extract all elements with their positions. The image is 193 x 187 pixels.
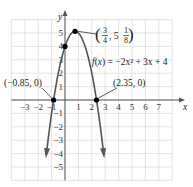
- svg-text:−2: −2: [53, 122, 63, 132]
- right-root-point: [94, 97, 99, 102]
- left-root-point: [51, 97, 56, 102]
- svg-text:3: 3: [103, 102, 108, 112]
- svg-text:−2: −2: [33, 102, 43, 112]
- left-root-label: (−0.85, 0): [4, 78, 42, 89]
- svg-text:−3: −3: [53, 135, 63, 145]
- svg-text:7: 7: [157, 102, 162, 112]
- function-label: f(x) = −2x² + 3x + 4: [92, 57, 168, 68]
- x-axis-label: x: [182, 102, 188, 112]
- svg-text:5: 5: [130, 102, 135, 112]
- svg-text:−5: −5: [53, 162, 63, 172]
- svg-text:): ): [128, 25, 134, 44]
- vertex-point: [72, 29, 77, 34]
- svg-text:−1: −1: [53, 108, 63, 118]
- svg-text:, 5: , 5: [109, 31, 119, 41]
- svg-text:1: 1: [59, 82, 64, 92]
- svg-text:−3: −3: [20, 102, 30, 112]
- svg-text:(: (: [95, 25, 101, 44]
- svg-text:−4: −4: [53, 149, 63, 159]
- svg-text:3: 3: [103, 26, 107, 35]
- y-axis-label: y: [57, 12, 63, 22]
- right-root-label: (2.35, 0): [113, 78, 145, 89]
- svg-text:6: 6: [143, 102, 148, 112]
- svg-text:5: 5: [59, 28, 64, 38]
- y-intercept-point: [62, 44, 67, 49]
- svg-text:2: 2: [90, 102, 95, 112]
- svg-text:1: 1: [76, 102, 81, 112]
- parabola-graph: −3−2−1123456754321−1−2−3−4−5 y x (−0.85,…: [0, 0, 193, 187]
- vertex-label: ( 3 4 , 5 1 8 ): [95, 25, 134, 45]
- svg-text:4: 4: [103, 36, 107, 45]
- svg-text:4: 4: [116, 102, 121, 112]
